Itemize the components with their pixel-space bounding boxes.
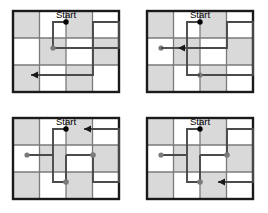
panel-c: Start [0,107,134,213]
path-node [197,179,203,185]
start-label: Start [56,116,76,127]
start-label: Start [190,9,210,20]
panel-d-canvas: Start [134,107,268,213]
panel-a: Start [0,0,134,106]
start-label: Start [56,9,76,20]
panel-d: Start [134,107,268,213]
path-node [90,152,96,158]
panel-a-canvas: Start [0,0,134,106]
panel-b: Start [134,0,268,106]
path-node [63,179,69,185]
start-dot [63,126,68,131]
panel-b-canvas: Start [134,0,268,106]
path-node [24,152,29,157]
path-node [50,45,55,50]
start-label: Start [190,116,210,127]
path-node [158,152,163,157]
path-node [224,152,230,158]
panel-c-canvas: Start [0,107,134,213]
start-dot [197,19,202,24]
maze-figure: Start [0,0,268,213]
start-dot [197,126,202,131]
start-dot [63,19,68,24]
